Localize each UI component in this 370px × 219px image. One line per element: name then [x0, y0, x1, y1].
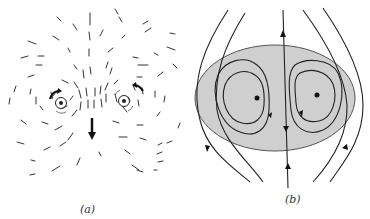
left-vortex-icon — [52, 92, 67, 113]
up-arrow-icon — [280, 30, 286, 37]
panel-b-label: (b) — [285, 193, 301, 206]
vortex-pair-streamline-diagram — [185, 0, 370, 219]
up-arrow-icon — [285, 163, 291, 169]
panel-a-label: (a) — [80, 203, 95, 216]
up-arrow-icon — [205, 145, 210, 152]
panel-a-vortex-pair-field: (a) — [0, 0, 185, 219]
panel-b-streamlines: (b) — [185, 0, 370, 219]
left-vortex-center-icon — [255, 96, 260, 101]
up-arrow-icon — [342, 144, 348, 150]
vortex-pair-dash-field — [0, 0, 185, 219]
downward-induced-motion-arrow-icon — [88, 118, 96, 140]
shaded-recirculation-oval — [195, 45, 355, 151]
right-vortex-center-icon — [315, 93, 320, 98]
